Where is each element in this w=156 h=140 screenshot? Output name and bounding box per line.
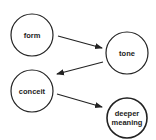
edge-form-to-tone [58,36,102,48]
node-deeper-meaning: deeper meaning [107,98,147,138]
node-label-deeper: deeper [115,109,140,118]
edge-tone-to-conceit [57,62,103,74]
node-tone: tone [106,32,148,74]
node-label-meaning: meaning [112,118,143,127]
node-label-form: form [24,31,41,40]
concept-diagram: form tone conceit deeper meaning [0,0,156,140]
node-label-conceit: conceit [19,87,46,96]
node-conceit: conceit [11,70,53,112]
edge-conceit-to-deeper-meaning [57,94,102,107]
node-form: form [11,14,53,56]
node-label-tone: tone [119,49,135,58]
